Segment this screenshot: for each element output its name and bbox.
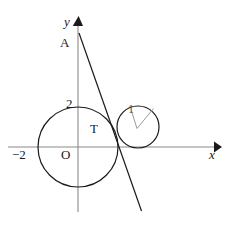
radius-mark-right	[137, 109, 154, 129]
y-tick-2-label: 2	[66, 97, 73, 110]
point-a-label: A	[60, 36, 69, 49]
figure-canvas	[0, 0, 236, 239]
x-axis-label: x	[209, 148, 215, 161]
y-axis-label: y	[64, 15, 70, 28]
x-axis-arrow-icon	[214, 142, 222, 153]
radius-marks	[132, 109, 154, 129]
radius-length-label: 1	[128, 103, 134, 115]
y-axis-arrow-icon	[73, 16, 83, 26]
geometry-figure: y x A 2 −2 O T 1	[0, 0, 236, 239]
y-axis	[73, 16, 83, 212]
origin-label: O	[61, 148, 70, 161]
x-tick-neg2-label: −2	[12, 148, 26, 161]
point-t-label: T	[90, 122, 98, 135]
tangent-line	[79, 33, 142, 211]
x-axis	[8, 142, 222, 153]
